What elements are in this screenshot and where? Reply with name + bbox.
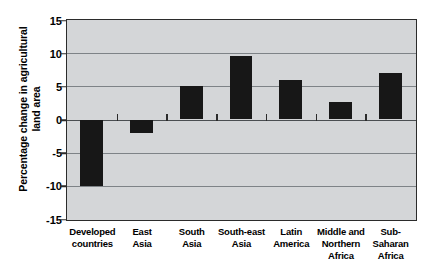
gridline-10 — [67, 53, 416, 54]
chart-figure: Percentage change in agricultural land a… — [0, 0, 434, 273]
x-axis-label: Sub- Saharan Africa — [360, 226, 422, 262]
bar — [379, 73, 402, 119]
bar — [329, 102, 352, 119]
y-tick-label--5: -5 — [32, 147, 62, 159]
bar — [130, 120, 153, 133]
bar — [230, 56, 253, 119]
x-tick-mark — [216, 114, 218, 121]
x-tick-mark — [166, 114, 168, 121]
gridline--10 — [67, 186, 416, 187]
y-tick-label-0: 0 — [32, 114, 62, 126]
plot-area — [66, 19, 417, 221]
y-tick-label-10: 10 — [32, 48, 62, 60]
gridline--5 — [67, 153, 416, 154]
x-tick-mark — [316, 114, 318, 121]
y-tick-label--10: -10 — [32, 180, 62, 192]
y-tick-label--15: -15 — [32, 214, 62, 226]
bar — [180, 86, 203, 119]
y-tick-label-15: 15 — [32, 15, 62, 27]
gridline-0 — [67, 120, 416, 121]
x-tick-mark — [117, 114, 119, 121]
bar — [279, 80, 302, 120]
y-tick-label-5: 5 — [32, 81, 62, 93]
x-tick-mark — [266, 114, 268, 121]
x-tick-mark — [365, 114, 367, 121]
bar — [80, 120, 103, 186]
